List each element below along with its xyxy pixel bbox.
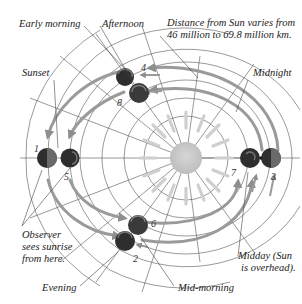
planet-5 (61, 149, 80, 168)
label-evening: Evening (42, 282, 76, 294)
position-number-1: 1 (34, 144, 39, 154)
label-distance-note-1: Distance from Sun varies from (167, 17, 295, 29)
label-afternoon: Afternoon (102, 18, 144, 30)
sun (170, 142, 202, 174)
planet-6 (128, 215, 148, 235)
position-number-4: 4 (141, 63, 146, 73)
position-number-7: 7 (231, 168, 236, 178)
position-number-8: 8 (117, 98, 122, 108)
label-early-morning: Early morning (19, 18, 81, 30)
label-sunset: Sunset (22, 67, 49, 79)
label-mid-morning: Mid-morning (178, 282, 234, 294)
label-midday-1: Midday (Sun (238, 250, 292, 262)
position-number-5: 5 (64, 172, 69, 182)
label-midday-2: is overhead). (241, 262, 296, 274)
planet-7 (240, 148, 260, 168)
planet-2 (115, 231, 135, 251)
label-observer-3: from here. (22, 253, 65, 265)
label-midnight: Midnight (253, 67, 292, 79)
position-number-3: 3 (271, 172, 276, 182)
planet-1 (37, 148, 57, 168)
label-distance-note-2: 46 million to 69.8 million km. (167, 29, 292, 41)
planet-4 (116, 68, 134, 86)
planet-8 (129, 83, 149, 103)
label-observer-1: Observer (22, 229, 61, 241)
position-number-6: 6 (151, 219, 156, 229)
position-number-2: 2 (133, 254, 138, 264)
planet-3 (261, 148, 281, 168)
label-observer-2: sees sunrise (22, 241, 72, 253)
